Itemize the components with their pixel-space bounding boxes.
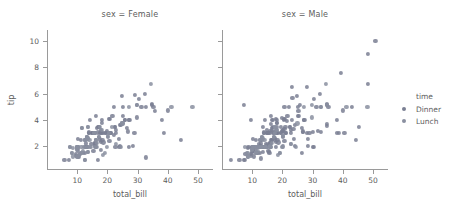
- data-point: [323, 82, 327, 86]
- data-point: [242, 103, 246, 107]
- y-tick: [218, 120, 222, 121]
- data-point: [354, 138, 358, 142]
- data-point: [366, 82, 370, 86]
- data-point: [311, 130, 315, 134]
- data-point: [300, 151, 304, 155]
- data-point: [259, 156, 263, 160]
- data-point: [366, 52, 370, 56]
- data-point: [260, 150, 264, 154]
- data-point: [339, 71, 343, 75]
- data-point: [296, 109, 300, 113]
- data-point: [277, 151, 281, 155]
- y-tick: [218, 146, 222, 147]
- data-point: [319, 130, 323, 134]
- data-point: [287, 105, 291, 109]
- data-point: [246, 154, 250, 158]
- data-point: [306, 137, 310, 141]
- legend-item-lunch[interactable]: Lunch: [398, 115, 459, 126]
- data-point: [267, 151, 271, 155]
- legend-item-dinner[interactable]: Dinner: [398, 103, 459, 114]
- x-axis-spine: [222, 169, 388, 170]
- data-point: [310, 115, 314, 119]
- data-point: [341, 108, 345, 112]
- x-tick-label: 50: [368, 176, 378, 185]
- data-point: [295, 121, 299, 125]
- data-point: [274, 144, 278, 148]
- data-point: [302, 105, 306, 109]
- legend-swatch: [402, 118, 406, 122]
- data-point: [249, 118, 253, 122]
- y-tick: [218, 67, 222, 68]
- data-point: [365, 105, 369, 109]
- x-tick: [343, 170, 344, 174]
- y-tick: [218, 41, 222, 42]
- x-tick-label: 10: [247, 176, 257, 185]
- data-point: [357, 125, 361, 129]
- data-point: [290, 96, 294, 100]
- legend-label: Lunch: [416, 116, 438, 125]
- data-point: [318, 91, 322, 95]
- data-point: [337, 131, 341, 135]
- data-point: [373, 38, 377, 42]
- data-point: [294, 144, 298, 148]
- facet-title: sex = Male: [222, 10, 388, 19]
- data-point: [290, 118, 294, 122]
- data-point: [294, 93, 298, 97]
- data-point: [350, 105, 354, 109]
- data-point: [282, 105, 286, 109]
- legend-title: time: [416, 92, 433, 101]
- data-point: [290, 85, 294, 89]
- data-point: [312, 97, 316, 101]
- data-point: [229, 158, 233, 162]
- data-point: [263, 118, 267, 122]
- x-axis-label: total_bill: [288, 190, 322, 199]
- x-tick: [282, 170, 283, 174]
- y-tick: [218, 94, 222, 95]
- data-point: [296, 114, 300, 118]
- data-point: [302, 118, 306, 122]
- data-point: [344, 105, 348, 109]
- data-point: [282, 138, 286, 142]
- scatter-plot-figure: sex = Female2468101020304050total_billti…: [0, 0, 459, 208]
- data-point: [306, 144, 310, 148]
- facet-panel-male: sex = Male1020304050total_bill: [0, 0, 459, 208]
- data-point: [305, 85, 309, 89]
- legend-label: Dinner: [416, 104, 441, 113]
- x-tick: [313, 170, 314, 174]
- x-tick: [373, 170, 374, 174]
- x-tick: [252, 170, 253, 174]
- x-tick-label: 40: [338, 176, 348, 185]
- x-tick-label: 20: [278, 176, 288, 185]
- y-axis-spine: [222, 30, 223, 169]
- data-point: [319, 105, 323, 109]
- data-point: [292, 137, 296, 141]
- data-point: [342, 131, 346, 135]
- x-tick-label: 30: [308, 176, 318, 185]
- legend-swatch: [402, 106, 406, 110]
- data-point: [335, 118, 339, 122]
